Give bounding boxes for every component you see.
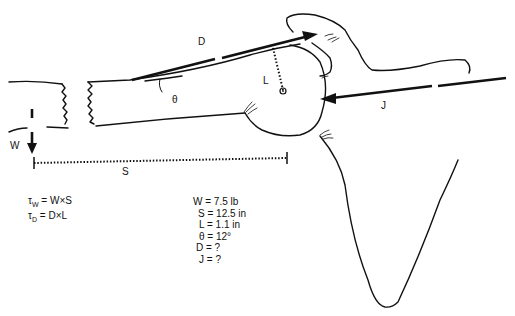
given-deltoid: D = ? xyxy=(196,242,246,254)
forearm-upper-edge xyxy=(9,81,62,84)
acromion xyxy=(287,14,470,73)
label-moment-arm: L xyxy=(263,75,269,86)
deltoid-arrowhead xyxy=(302,31,318,41)
tau-subscript: W xyxy=(32,201,39,208)
given-angle: θ = 12° xyxy=(199,231,246,243)
tau-subscript: D xyxy=(32,216,37,223)
given-distance: S = 12.5 in xyxy=(198,208,246,220)
deltoid-force-line-b xyxy=(222,37,305,58)
moment-arm-line xyxy=(273,48,283,90)
weight-arrowhead xyxy=(27,143,37,154)
joint-reaction-arrowhead xyxy=(320,93,336,104)
label-distance: S xyxy=(122,166,129,177)
scapula-lateral-border xyxy=(320,136,458,307)
joint-reaction-line-b xyxy=(438,78,506,86)
forearm-lower-edge xyxy=(47,127,68,128)
label-weight: W xyxy=(10,140,19,151)
label-joint-reaction: J xyxy=(381,100,386,111)
equation-expression: = W×S xyxy=(41,195,72,206)
torque-weight-equation: τW = W×S xyxy=(28,195,72,210)
label-angle: θ xyxy=(172,94,178,105)
distance-line xyxy=(34,158,286,163)
torque-deltoid-equation: τD = D×L xyxy=(28,210,72,225)
joint-reaction-line-a xyxy=(332,86,432,98)
angle-arc xyxy=(159,79,162,92)
forearm-lower-stub xyxy=(9,128,27,132)
given-moment-arm: L = 1.1 in xyxy=(199,219,246,231)
humeral-head xyxy=(245,45,326,136)
given-values: W = 7.5 lb S = 12.5 in L = 1.1 in θ = 12… xyxy=(193,196,246,265)
given-joint: J = ? xyxy=(199,254,246,266)
coracoid xyxy=(312,43,332,76)
label-deltoid-force: D xyxy=(198,36,205,47)
given-weight: W = 7.5 lb xyxy=(193,196,246,208)
shoulder-diagram xyxy=(0,0,515,316)
humerus-lower-edge xyxy=(96,113,245,126)
torque-equations: τW = W×S τD = D×L xyxy=(28,195,72,225)
humerus-break-right xyxy=(88,82,94,124)
equation-expression: = D×L xyxy=(40,210,67,221)
forearm-break-left xyxy=(62,84,67,124)
